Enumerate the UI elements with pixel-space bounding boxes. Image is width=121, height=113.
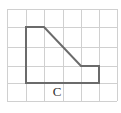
shape-label: C <box>51 85 63 99</box>
shape-c <box>26 27 99 83</box>
